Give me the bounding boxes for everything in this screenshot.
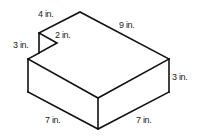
label-notch-diagonal: 2 in. [55, 30, 71, 40]
label-notch-vertical: 3 in. [13, 40, 29, 50]
label-front-right-edge: 7 in. [136, 115, 152, 125]
label-right-height: 3 in. [172, 72, 188, 82]
label-front-left-edge: 7 in. [45, 115, 61, 125]
prism-edges [28, 12, 169, 129]
label-top-right-edge: 9 in. [119, 20, 135, 30]
dimension-labels: 4 in. 9 in. 3 in. 2 in. 3 in. 7 in. 7 in… [13, 9, 188, 125]
label-top-left-edge: 4 in. [38, 9, 54, 19]
notch-to-front-edge [28, 53, 39, 59]
top-front-edges [28, 59, 169, 98]
prism-diagram: 4 in. 9 in. 3 in. 2 in. 3 in. 7 in. 7 in… [0, 0, 206, 138]
